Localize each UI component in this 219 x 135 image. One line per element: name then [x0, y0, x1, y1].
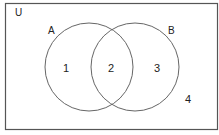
- set-a-label: A: [48, 25, 55, 36]
- set-b-label: B: [168, 25, 175, 36]
- region-1-label: 1: [63, 62, 69, 74]
- region-3-label: 3: [154, 62, 160, 74]
- universe-label: U: [15, 7, 22, 18]
- region-2-label: 2: [108, 62, 114, 74]
- venn-diagram: U A B 1 2 3 4: [0, 0, 219, 135]
- region-4-label: 4: [185, 93, 191, 105]
